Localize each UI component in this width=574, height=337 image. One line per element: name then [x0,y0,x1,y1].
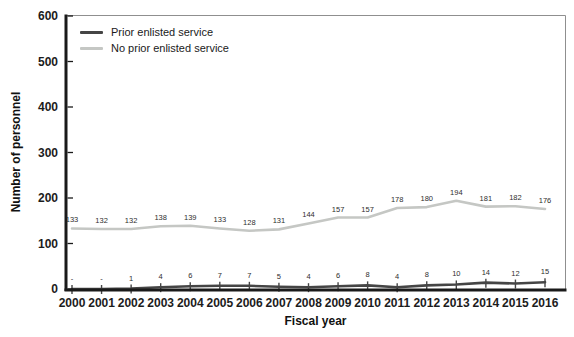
x-tick-label: 2002 [118,296,145,310]
data-label: 10 [452,269,460,278]
data-label: 176 [539,196,552,205]
y-tick-label: 500 [38,55,58,69]
legend-item-prior-enlisted: Prior enlisted service [80,24,229,40]
data-label: 8 [366,270,370,279]
data-label: 157 [361,205,374,214]
data-label: - [71,274,74,283]
data-label: 7 [247,271,251,280]
data-label: 132 [125,216,138,225]
y-tick-label: 400 [38,100,58,114]
data-label: 8 [425,270,429,279]
data-label: 7 [218,271,222,280]
plot-border [66,16,566,290]
data-label: 133 [66,215,79,224]
data-label: 5 [277,272,281,281]
data-label: 138 [154,213,167,222]
data-label: 181 [480,194,493,203]
y-tick-label: 300 [38,146,58,160]
data-label: 132 [95,216,108,225]
data-label: 12 [511,269,519,278]
x-tick-label: 2016 [532,296,559,310]
legend-swatch-prior-enlisted [80,31,103,34]
data-label: 144 [302,210,315,219]
legend: Prior enlisted service No prior enlisted… [80,24,229,56]
x-tick-label: 2012 [413,296,440,310]
x-tick-label: 2005 [206,296,233,310]
data-label: 157 [332,205,345,214]
x-tick-label: 2001 [88,296,115,310]
data-label: 4 [306,272,310,281]
data-label: 178 [391,195,404,204]
x-tick-label: 2007 [266,296,293,310]
data-label: 131 [273,216,286,225]
y-axis-title: Number of personnel [9,92,23,213]
legend-swatch-no-prior-enlisted [80,47,103,50]
data-label: 128 [243,218,256,227]
x-tick-label: 2014 [473,296,500,310]
x-tick-label: 2003 [147,296,174,310]
data-label: 15 [541,267,549,276]
x-tick-label: 2013 [443,296,470,310]
x-tick-label: 2008 [295,296,322,310]
data-label: 4 [159,272,163,281]
data-label: 1 [129,274,133,283]
x-tick-label: 2006 [236,296,263,310]
x-tick-label: 2000 [59,296,86,310]
legend-label-prior-enlisted: Prior enlisted service [111,24,213,40]
x-tick-label: 2009 [325,296,352,310]
data-label: 180 [420,194,433,203]
y-tick-label: 0 [51,282,58,296]
data-label: 194 [450,188,463,197]
data-label: 6 [336,271,340,280]
data-label: 6 [188,271,192,280]
data-label: 133 [214,215,227,224]
legend-item-no-prior-enlisted: No prior enlisted service [80,40,229,56]
y-tick-label: 200 [38,191,58,205]
data-label: 14 [482,268,490,277]
data-label: 182 [509,193,522,202]
x-tick-label: 2004 [177,296,204,310]
data-label: - [100,274,103,283]
data-label: 139 [184,213,197,222]
legend-label-no-prior-enlisted: No prior enlisted service [111,40,229,56]
x-tick-label: 2010 [354,296,381,310]
x-axis-title: Fiscal year [66,314,565,328]
line-chart-figure: 0100200300400500600200020012002200320042… [0,0,574,337]
x-tick-label: 2011 [384,296,410,310]
data-label: 4 [395,272,399,281]
x-tick-label: 2015 [502,296,529,310]
y-tick-label: 100 [38,237,58,251]
y-tick-label: 600 [38,9,58,23]
